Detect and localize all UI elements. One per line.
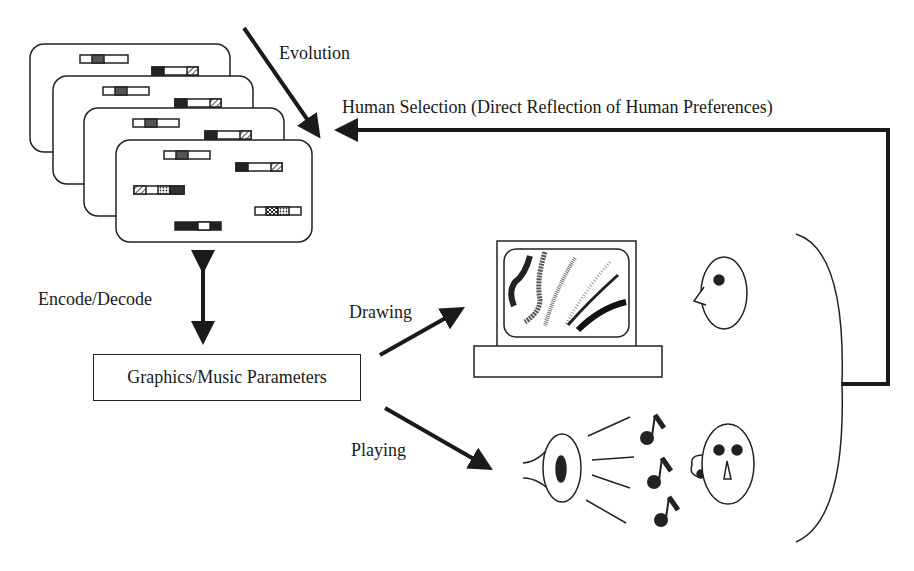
playing-label: Playing [351, 441, 406, 459]
genome-card-stack [30, 44, 312, 242]
drawing-label: Drawing [349, 303, 412, 321]
evolution-label: Evolution [279, 44, 350, 62]
music-note-icon [641, 415, 664, 444]
human-selection-label: Human Selection (Direct Reflection of Hu… [342, 98, 773, 116]
encode-decode-label: Encode/Decode [38, 290, 152, 308]
music-note-icon [655, 497, 678, 526]
human-group-bracket [796, 234, 842, 542]
parameters-box-label: Graphics/Music Parameters [127, 367, 326, 388]
parameters-box: Graphics/Music Parameters [93, 354, 361, 401]
speaker-icon [523, 417, 634, 523]
genome-card-4 [116, 140, 312, 242]
computer-monitor-icon [474, 241, 662, 377]
face-front-icon [691, 424, 754, 504]
music-notes [641, 415, 678, 526]
music-note-icon [648, 458, 671, 488]
diagram-canvas [0, 0, 914, 571]
face-profile-icon [694, 257, 747, 329]
